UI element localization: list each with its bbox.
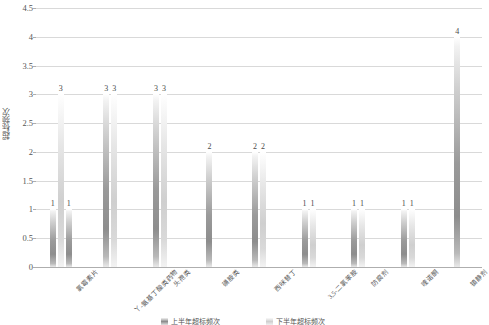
legend-item[interactable]: 上半年超标频次 [161, 316, 220, 325]
legend-label: 上半年超标频次 [171, 316, 220, 325]
bar-group: 33 [135, 8, 185, 267]
bar-value-label: 1 [303, 199, 307, 208]
y-axis-ticks: 00.511.522.533.544.5 [0, 0, 33, 325]
bar: 1 [351, 8, 357, 267]
x-tick-label: 镇静剂 [469, 268, 489, 288]
chart-legend: 上半年超标频次下半年超标频次 [0, 316, 486, 325]
y-tick-label: 2.5 [0, 118, 33, 128]
bar-fill [260, 152, 266, 267]
y-tick-label: 0.5 [0, 233, 33, 243]
x-axis-labels: 氯霉素片丫-氨基丁酸类药物头孢类磺胺类西咪替丁3,5-二氯苯胺防腐剂喹诺酮镇静剂 [36, 268, 482, 316]
bar-fill [454, 37, 460, 267]
legend-swatch-icon [266, 318, 273, 325]
bar-value-label: 1 [311, 199, 315, 208]
legend-item[interactable]: 下半年超标频次 [266, 316, 325, 325]
bar-value-label: 3 [59, 84, 63, 93]
y-tick-label: 3.5 [0, 61, 33, 71]
bar-value-label: 3 [112, 84, 116, 93]
bar-fill [310, 209, 316, 267]
bar-fill [58, 94, 64, 267]
bar-group: 11 [284, 8, 334, 267]
bar: 3 [153, 8, 159, 267]
bar-value-label: 1 [51, 199, 55, 208]
bar: 1 [401, 8, 407, 267]
bar-group: 4 [432, 8, 482, 267]
bar: 2 [206, 8, 212, 267]
bar-value-label: 3 [154, 84, 158, 93]
bar-value-label: 1 [360, 199, 364, 208]
bar-value-label: 1 [67, 199, 71, 208]
bar: 1 [50, 8, 56, 267]
bar-fill [359, 209, 365, 267]
bar: 3 [161, 8, 167, 267]
bar: 1 [310, 8, 316, 267]
bar: 1 [409, 8, 415, 267]
bar-fill [66, 209, 72, 267]
y-tick-label: 1.5 [0, 176, 33, 186]
y-tick-label: 4.5 [0, 3, 33, 13]
bar: 4 [454, 8, 460, 267]
bar: 3 [111, 8, 117, 267]
bar-fill [401, 209, 407, 267]
x-tick-label: 喹诺酮 [420, 268, 440, 288]
x-tick-label: 氯霉素片 [75, 268, 100, 293]
bar-fill [111, 94, 117, 267]
bar: 1 [359, 8, 365, 267]
bar-value-label: 1 [410, 199, 414, 208]
bar-fill [409, 209, 415, 267]
bar-value-label: 3 [104, 84, 108, 93]
bar: 2 [252, 8, 258, 267]
bar-group: 2 [185, 8, 235, 267]
y-tick-label: 2 [0, 147, 33, 157]
y-tick-label: 1 [0, 204, 33, 214]
bar: 3 [103, 8, 109, 267]
legend-swatch-icon [161, 318, 168, 325]
x-tick-label: 防腐剂 [370, 268, 390, 288]
bar: 2 [260, 8, 266, 267]
bar-fill [153, 94, 159, 267]
x-tick-label: 丫-氨基丁酸类药物 [133, 268, 179, 314]
bar: 1 [302, 8, 308, 267]
bar-value-label: 2 [253, 142, 257, 151]
bar-value-label: 2 [207, 142, 211, 151]
bar: 3 [58, 8, 64, 267]
bar-fill [206, 152, 212, 267]
bar-value-label: 2 [261, 142, 265, 151]
bar-group: 22 [234, 8, 284, 267]
bar-fill [252, 152, 258, 267]
bar-group: 131 [36, 8, 86, 267]
bar-group: 11 [383, 8, 433, 267]
bar-value-label: 4 [455, 27, 459, 36]
bar: 1 [66, 8, 72, 267]
bar-value-label: 3 [162, 84, 166, 93]
bar-group: 11 [333, 8, 383, 267]
bar-value-label: 1 [402, 199, 406, 208]
bar-value-label: 1 [352, 199, 356, 208]
x-tick-label: 3,5-二氯苯胺 [326, 268, 358, 300]
y-tick-label: 0 [0, 262, 33, 272]
y-tick-label: 4 [0, 32, 33, 42]
bar-fill [302, 209, 308, 267]
bar-fill [103, 94, 109, 267]
bar-fill [351, 209, 357, 267]
bar-fill [161, 94, 167, 267]
plot-area: 13133332221111114 [36, 8, 482, 267]
bar-fill [50, 209, 56, 267]
bar-group: 33 [86, 8, 136, 267]
x-tick-label: 磺胺类 [222, 268, 242, 288]
x-tick-label: 西咪替丁 [273, 268, 298, 293]
y-tick-label: 3 [0, 89, 33, 99]
legend-label: 下半年超标频次 [276, 316, 325, 325]
